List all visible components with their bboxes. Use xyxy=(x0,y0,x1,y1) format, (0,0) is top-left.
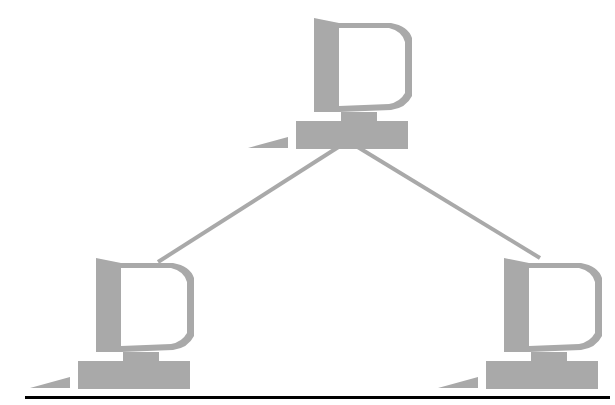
link-top-to-bottom-right xyxy=(356,146,540,258)
baseline-rule xyxy=(25,396,610,399)
connection-links xyxy=(158,146,540,262)
computer-icon xyxy=(248,18,412,149)
link-top-to-bottom-left xyxy=(158,146,340,262)
computer-icon xyxy=(438,258,602,389)
network-diagram xyxy=(0,0,615,405)
computer-icon xyxy=(30,258,194,389)
